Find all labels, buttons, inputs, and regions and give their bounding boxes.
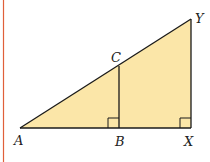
label-A: A	[13, 133, 23, 148]
label-C: C	[111, 50, 121, 65]
triangle-diagram: A B C X Y	[0, 0, 210, 162]
label-B: B	[114, 134, 125, 149]
label-Y: Y	[195, 11, 205, 26]
label-X: X	[183, 134, 194, 149]
